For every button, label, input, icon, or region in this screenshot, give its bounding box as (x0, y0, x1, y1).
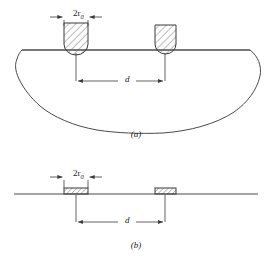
diameter-label-b-sub: 0 (81, 173, 84, 180)
separation-label-b: d (125, 215, 130, 225)
panel-b-caption: (b) (116, 240, 156, 250)
separation-dimension-b (76, 195, 165, 222)
diameter-label-a: 2r0 (73, 8, 84, 20)
diameter-label-a-text: 2r (73, 8, 81, 18)
left-inserted-electrode (64, 23, 88, 55)
panel-a (16, 17, 261, 133)
separation-dimension-a (76, 53, 165, 81)
left-surface-electrode (64, 188, 88, 194)
separation-label-b-text: d (125, 215, 130, 225)
body-cross-section-outline (16, 50, 261, 133)
diameter-label-b-text: 2r (73, 168, 81, 178)
panel-a-caption: (a) (116, 129, 156, 139)
separation-label-a: d (125, 74, 130, 84)
panel-b (14, 177, 258, 222)
diameter-label-b: 2r0 (73, 168, 84, 180)
figure-root: 2r0 d 2r0 d (a) (b) (0, 0, 272, 262)
right-surface-electrode (155, 188, 176, 194)
diameter-label-a-sub: 0 (81, 13, 84, 20)
separation-label-a-text: d (125, 74, 130, 84)
right-inserted-electrode (155, 25, 176, 54)
